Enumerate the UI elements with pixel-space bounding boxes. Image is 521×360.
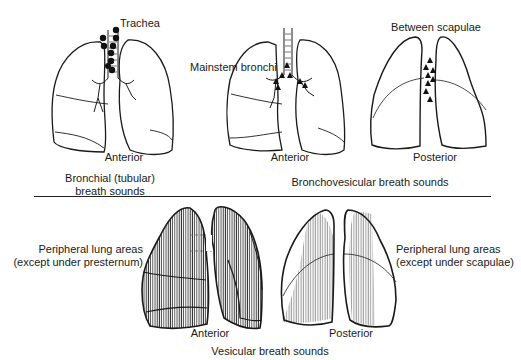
between-scapulae-markers: [423, 57, 436, 102]
vesicular-anterior-view-label: Anterior: [175, 327, 245, 340]
presternum-gap: [206, 235, 212, 251]
mainstem-bronchi-label: Mainstem bronchi: [190, 61, 277, 74]
vesicular-posterior-area-line1: Peripheral lung areas: [396, 243, 501, 256]
vesicular-posterior-view-label: Posterior: [316, 327, 386, 340]
vesicular-caption: Vesicular breath sounds: [180, 345, 360, 358]
vesicular-anterior-area-line1: Peripheral lung areas: [0, 243, 143, 256]
between-scapulae-label: Between scapulae: [376, 21, 496, 34]
bronchial-anterior-view-label: Anterior: [94, 151, 154, 164]
section-divider: [34, 196, 491, 197]
vesicular-anterior-lungs: [142, 207, 262, 329]
bronchovesicular-caption: Bronchovesicular breath sounds: [270, 176, 470, 189]
trachea-label: Trachea: [120, 17, 160, 30]
vesicular-posterior-lungs: [281, 210, 396, 327]
bronchovesicular-anterior-lungs: [227, 28, 345, 155]
bronchovesicular-posterior-view-label: Posterior: [400, 151, 470, 164]
bronchovesicular-anterior-view-label: Anterior: [260, 151, 320, 164]
vesicular-posterior-area-line2: (except under scapulae): [396, 256, 514, 269]
vesicular-anterior-area-line2: (except under presternum): [0, 256, 143, 269]
bronchial-caption-line1: Bronchial (tubular): [50, 172, 170, 185]
